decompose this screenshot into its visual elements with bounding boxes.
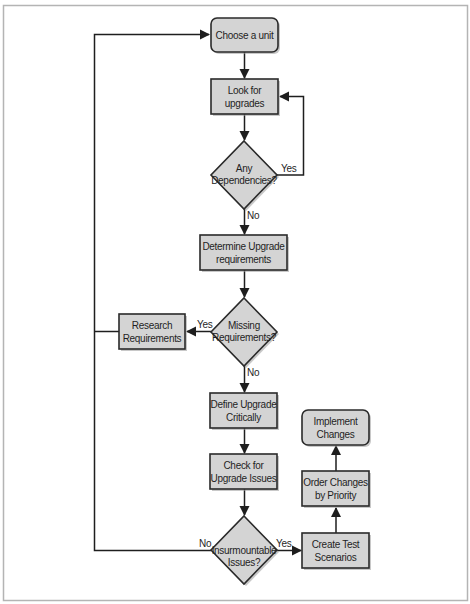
node-look-upgrades-line2: upgrades bbox=[225, 98, 265, 109]
node-choose-unit: Choose a unit bbox=[211, 18, 280, 54]
node-insurmountable-issues-line1: Insurmountable bbox=[212, 545, 277, 556]
node-order-changes: Order Changes by Priority bbox=[302, 471, 371, 508]
node-check-issues: Check for Upgrade Issues bbox=[210, 454, 279, 491]
node-research-requirements-line1: Research bbox=[132, 320, 172, 331]
node-implement-changes-line1: Implement bbox=[314, 416, 359, 427]
node-determine-requirements-line1: Determine Upgrade bbox=[202, 241, 285, 252]
flowchart-canvas: Yes No Yes No No Yes Choose a unit Look … bbox=[0, 0, 470, 604]
node-look-upgrades-line1: Look for bbox=[228, 85, 263, 96]
label-issues-no: No bbox=[199, 538, 212, 549]
node-missing-requirements: Missing Requirements? bbox=[211, 298, 279, 368]
node-choose-unit-text: Choose a unit bbox=[216, 30, 274, 41]
node-define-upgrade-line1: Define Upgrade bbox=[211, 399, 278, 410]
node-research-requirements: Research Requirements bbox=[119, 314, 187, 351]
node-check-issues-line1: Check for bbox=[223, 460, 264, 471]
node-order-changes-line1: Order Changes bbox=[303, 477, 368, 488]
node-any-dependencies-line1: Any bbox=[236, 163, 253, 174]
node-look-upgrades: Look for upgrades bbox=[211, 79, 280, 116]
label-missing-yes: Yes bbox=[197, 319, 213, 330]
node-missing-requirements-line1: Missing bbox=[228, 320, 260, 331]
node-determine-requirements: Determine Upgrade requirements bbox=[200, 235, 289, 272]
node-create-test-line1: Create Test bbox=[312, 539, 360, 550]
label-issues-yes: Yes bbox=[276, 538, 292, 549]
node-determine-requirements-line2: requirements bbox=[216, 254, 271, 265]
node-create-test: Create Test Scenarios bbox=[302, 533, 371, 570]
node-implement-changes: Implement Changes bbox=[302, 410, 371, 447]
label-missing-no: No bbox=[247, 367, 260, 378]
node-define-upgrade-line2: Critically bbox=[226, 412, 261, 423]
node-insurmountable-issues: Insurmountable Issues? bbox=[211, 516, 279, 586]
node-insurmountable-issues-line2: Issues? bbox=[228, 557, 261, 568]
label-dependencies-yes: Yes bbox=[281, 163, 297, 174]
node-any-dependencies-line2: Dependencies? bbox=[211, 175, 277, 186]
node-order-changes-line2: by Priority bbox=[315, 490, 356, 501]
node-any-dependencies: Any Dependencies? bbox=[211, 141, 279, 211]
node-define-upgrade: Define Upgrade Critically bbox=[210, 393, 279, 430]
node-create-test-line2: Scenarios bbox=[315, 552, 357, 563]
edge-loop-back-to-choose bbox=[95, 35, 212, 551]
node-research-requirements-line2: Requirements bbox=[123, 333, 182, 344]
node-implement-changes-line2: Changes bbox=[317, 429, 355, 440]
node-missing-requirements-line2: Requirements? bbox=[212, 332, 277, 343]
label-dependencies-no: No bbox=[247, 210, 260, 221]
node-check-issues-line2: Upgrade Issues bbox=[211, 473, 277, 484]
